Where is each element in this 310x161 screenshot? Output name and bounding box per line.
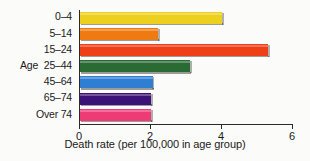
bar (80, 93, 151, 105)
y-axis-category-labels: Age 0–4 5–14 15–24 25–44 45–64 65–74 Ove… (0, 9, 75, 123)
x-axis-line (79, 124, 292, 125)
bar-chart: Age 0–4 5–14 15–24 25–44 45–64 65–74 Ove… (0, 0, 310, 161)
x-axis-tick (292, 124, 293, 129)
x-axis-tick (150, 124, 151, 129)
bar (80, 12, 222, 24)
y-axis-tick-label: 65–74 (44, 89, 72, 105)
y-axis-tick-label: Over 74 (36, 106, 72, 122)
y-axis-tick-label: 15–24 (44, 41, 72, 57)
bar (80, 60, 190, 72)
y-axis-tick-label: 45–64 (44, 73, 72, 89)
bar (80, 28, 158, 40)
x-axis-tick (221, 124, 222, 129)
bar (80, 109, 151, 121)
x-axis-tick (79, 124, 80, 129)
bar (80, 44, 268, 56)
y-axis-tick-label: 25–44 (44, 57, 72, 73)
plot-area: 0 2 4 6 (79, 10, 292, 124)
y-axis-tick-label: 0–4 (55, 8, 72, 24)
bar (80, 76, 153, 88)
y-axis-tick-label: 5–14 (49, 25, 72, 41)
x-axis-title: Death rate (per 100,000 in age group) (0, 138, 310, 150)
y-axis-title: Age (20, 57, 38, 73)
